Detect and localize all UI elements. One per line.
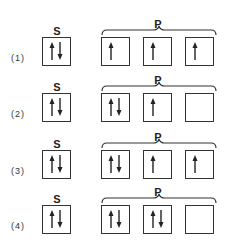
s-orbital-label: S [50, 138, 64, 150]
option-number: (1) [11, 53, 25, 63]
spin-down-arrow-icon [117, 155, 122, 173]
spin-up-arrow-icon [109, 155, 114, 173]
spin-up-arrow-icon [193, 42, 198, 60]
curly-brace-icon [101, 139, 217, 149]
spin-down-arrow-icon [117, 210, 122, 228]
spin-up-arrow-icon [151, 210, 156, 228]
p-orbital-box [185, 205, 214, 234]
curly-brace-icon [101, 26, 217, 36]
p-orbital-box [101, 93, 130, 122]
p-orbital-box [101, 205, 130, 234]
p-orbital-box [185, 93, 214, 122]
option-number: (2) [11, 109, 25, 119]
spin-up-arrow-icon [109, 210, 114, 228]
s-orbital-box [42, 150, 71, 179]
p-orbital-box [143, 205, 172, 234]
spin-up-arrow-icon [109, 98, 114, 116]
spin-up-arrow-icon [109, 42, 114, 60]
s-orbital-label: S [50, 25, 64, 37]
option-number: (3) [11, 166, 25, 176]
spin-up-arrow-icon [50, 98, 55, 116]
curly-brace-icon [101, 82, 217, 92]
spin-down-arrow-icon [58, 155, 63, 173]
spin-up-arrow-icon [151, 155, 156, 173]
spin-up-arrow-icon [151, 42, 156, 60]
p-orbital-box [101, 37, 130, 66]
option-row: (4)SP [0, 205, 226, 246]
curly-brace-icon [101, 194, 217, 204]
spin-up-arrow-icon [151, 98, 156, 116]
p-orbital-box [101, 150, 130, 179]
spin-up-arrow-icon [193, 155, 198, 173]
spin-up-arrow-icon [50, 42, 55, 60]
spin-up-arrow-icon [50, 155, 55, 173]
p-orbital-box [143, 150, 172, 179]
s-orbital-label: S [50, 81, 64, 93]
p-orbital-box [143, 37, 172, 66]
p-orbital-box [143, 93, 172, 122]
p-orbital-box [185, 150, 214, 179]
spin-down-arrow-icon [58, 42, 63, 60]
s-orbital-box [42, 93, 71, 122]
spin-down-arrow-icon [117, 98, 122, 116]
option-number: (4) [11, 221, 25, 231]
p-orbital-box [185, 37, 214, 66]
spin-down-arrow-icon [58, 98, 63, 116]
s-orbital-label: S [50, 193, 64, 205]
spin-down-arrow-icon [159, 210, 164, 228]
s-orbital-box [42, 37, 71, 66]
s-orbital-box [42, 205, 71, 234]
spin-down-arrow-icon [58, 210, 63, 228]
spin-up-arrow-icon [50, 210, 55, 228]
